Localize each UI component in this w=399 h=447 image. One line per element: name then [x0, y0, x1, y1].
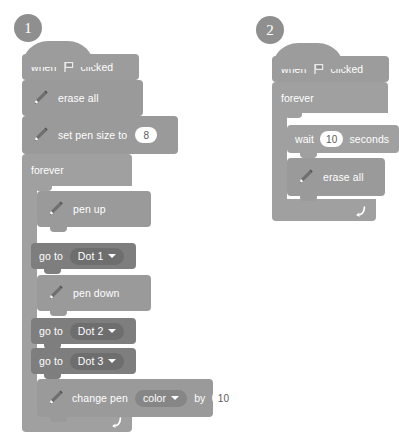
wait-seconds-input[interactable]: 10	[320, 131, 343, 147]
when-flag-clicked-block-1[interactable]: when clicked	[22, 54, 139, 80]
go-to-dot3-block[interactable]: go to Dot 3	[31, 348, 136, 374]
set-pen-size-block-1[interactable]: set pen size to 8	[22, 116, 178, 154]
erase-all-label: erase all	[323, 172, 364, 183]
pen-icon	[295, 167, 315, 187]
pen-icon	[30, 125, 50, 145]
seconds-label: seconds	[349, 134, 389, 145]
loop-arrow-icon	[354, 204, 367, 217]
script-number-badge-1: 1	[14, 14, 42, 42]
pen-down-label: pen down	[73, 288, 119, 299]
chevron-down-icon	[108, 254, 116, 258]
when-flag-clicked-block-2[interactable]: when clicked	[272, 56, 389, 82]
bottom-notch	[50, 311, 67, 316]
pen-attribute-dropdown[interactable]: color	[135, 390, 187, 407]
wait-label: wait	[295, 134, 314, 145]
dropdown-value: color	[143, 392, 166, 404]
green-flag-icon	[63, 61, 75, 73]
go-to-dot1-block[interactable]: go to Dot 1	[31, 243, 136, 269]
dropdown-value: Dot 1	[78, 250, 104, 262]
go-to-label: go to	[39, 356, 63, 367]
hat-cap	[272, 43, 344, 69]
green-flag-icon	[313, 63, 325, 75]
go-to-target-dropdown[interactable]: Dot 1	[70, 248, 125, 265]
change-pen-label: change pen	[72, 393, 128, 404]
pen-size-input[interactable]: 8	[135, 127, 157, 143]
pen-icon	[30, 88, 50, 108]
hat-cap	[22, 41, 94, 67]
wait-block-2[interactable]: wait 10 seconds	[287, 125, 399, 153]
forever-loop-foot	[272, 199, 376, 221]
go-to-label: go to	[39, 326, 63, 337]
pen-icon	[45, 199, 65, 219]
pen-up-label: pen up	[73, 204, 106, 215]
go-to-target-dropdown[interactable]: Dot 3	[70, 353, 125, 370]
dropdown-value: Dot 2	[78, 325, 104, 337]
blocks-canvas: 1 when clicked erase all	[0, 0, 399, 447]
chevron-down-icon	[108, 329, 116, 333]
dropdown-value: Dot 3	[78, 355, 104, 367]
bottom-notch	[300, 196, 317, 201]
pen-up-block-1[interactable]: pen up	[37, 191, 151, 227]
erase-all-label: erase all	[58, 93, 99, 104]
bottom-notch	[50, 417, 67, 422]
bottom-notch	[44, 269, 61, 274]
change-pen-block-1[interactable]: change pen color by 10	[37, 379, 213, 417]
forever-label: forever	[272, 82, 388, 113]
by-label: by	[194, 393, 205, 404]
pen-down-block-1[interactable]: pen down	[37, 275, 151, 311]
script-number-badge-2: 2	[256, 16, 284, 44]
go-to-dot2-block[interactable]: go to Dot 2	[31, 318, 136, 344]
forever-arm	[22, 186, 37, 410]
go-to-target-dropdown[interactable]: Dot 2	[70, 323, 125, 340]
forever-arm	[272, 113, 287, 199]
set-pen-size-label: set pen size to	[58, 130, 127, 141]
go-to-label: go to	[39, 251, 63, 262]
forever-label: forever	[22, 154, 132, 186]
change-pen-amount-input[interactable]: 10	[212, 390, 234, 406]
pen-icon	[45, 388, 65, 408]
erase-all-block-1[interactable]: erase all	[22, 80, 143, 116]
chevron-down-icon	[171, 396, 179, 400]
inner-notch	[285, 113, 302, 118]
bottom-notch	[50, 227, 67, 232]
erase-all-block-2[interactable]: erase all	[287, 158, 385, 196]
chevron-down-icon	[108, 359, 116, 363]
pen-icon	[45, 283, 65, 303]
